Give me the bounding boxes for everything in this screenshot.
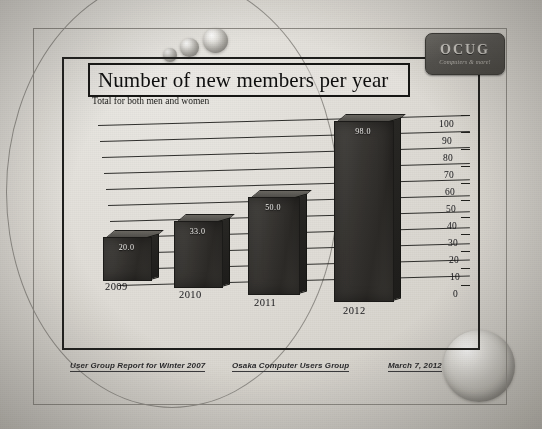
gridline: [104, 163, 470, 174]
gridline: [106, 179, 470, 190]
bar-front-face: [334, 121, 394, 302]
y-axis-label: 20: [449, 255, 459, 265]
y-axis-label: 30: [448, 238, 458, 248]
y-tick: [461, 217, 470, 218]
bar-2012: 98.0: [334, 121, 392, 300]
y-axis-label: 50: [446, 204, 456, 214]
y-tick: [461, 234, 470, 235]
slide-photo: OCUG Computers & more! Number of new mem…: [0, 0, 542, 429]
gridline: [100, 131, 470, 142]
bar-2009: 20.0: [103, 237, 150, 279]
y-axis-label: 70: [444, 170, 454, 180]
x-axis-label-2009: 2009: [105, 281, 128, 292]
bar-2010: 33.0: [174, 221, 221, 286]
bar-value-label: 98.0: [334, 127, 392, 136]
footer-report-title: User Group Report for Winter 2007: [70, 361, 205, 372]
logo-wordmark: OCUG: [440, 43, 490, 57]
footer-group-name: Osaka Computer Users Group: [232, 361, 349, 372]
y-axis-label: 90: [442, 136, 452, 146]
bar-2011: 50.0: [248, 197, 298, 293]
bar-value-label: 33.0: [174, 227, 221, 236]
x-axis-label-2011: 2011: [254, 297, 276, 308]
gridline: [102, 147, 470, 158]
y-axis-label: 60: [445, 187, 455, 197]
footer-date: March 7, 2012: [388, 361, 442, 372]
y-tick: [461, 268, 470, 269]
y-tick: [461, 285, 470, 286]
gridline: [98, 115, 470, 126]
y-tick: [461, 183, 470, 184]
y-tick: [461, 149, 470, 150]
y-axis-label: 0: [453, 289, 458, 299]
y-tick: [461, 200, 470, 201]
y-tick: [461, 132, 470, 133]
y-tick: [461, 166, 470, 167]
x-axis-label-2012: 2012: [343, 305, 366, 316]
bar-chart: 100 90 80 70 60 50 40 30 20 10 0 20.0 33…: [62, 57, 476, 346]
y-axis-label: 40: [447, 221, 457, 231]
y-axis-label: 10: [450, 272, 460, 282]
y-tick: [461, 251, 470, 252]
bar-value-label: 50.0: [248, 203, 298, 212]
x-axis-label-2010: 2010: [179, 289, 202, 300]
y-tick: [461, 115, 470, 116]
y-axis-label: 100: [439, 119, 454, 129]
y-axis-label: 80: [443, 153, 453, 163]
bar-value-label: 20.0: [103, 243, 150, 252]
